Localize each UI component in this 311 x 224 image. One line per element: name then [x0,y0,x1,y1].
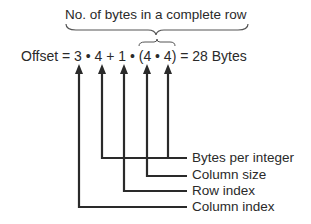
large-brace-icon [66,24,248,35]
arrowheads [75,64,172,74]
offset-equation: Offset = 3 • 4 + 1 • (4 • 4) = 28 Bytes [21,48,247,64]
label-row-index: Row index [192,183,255,198]
arrow-up-icon [164,64,172,74]
small-brace-icon [139,39,175,46]
diagram-lines [0,0,311,224]
arrow-up-icon [143,64,151,74]
label-column-index: Column index [192,199,275,214]
label-column-size: Column size [192,167,266,182]
arrow-up-icon [98,64,106,74]
label-bytes-per-integer: Bytes per integer [192,150,294,165]
arrow-up-icon [75,64,83,74]
arrow-up-icon [120,64,128,74]
